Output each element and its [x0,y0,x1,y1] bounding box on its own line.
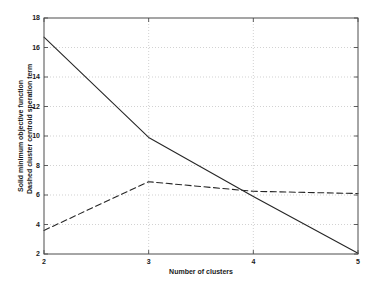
y-axis-label: Solid minimum objective function Dashed … [16,78,34,194]
y-axis-label-line-2: Dashed cluster centroid speration term [25,78,34,194]
y-tick-label: 2 [16,250,40,257]
x-axis-label: Number of clusters [141,268,261,275]
x-tick-label: 5 [348,258,368,265]
y-tick-label: 4 [16,221,40,228]
x-tick-label: 2 [34,258,54,265]
y-tick-label: 18 [16,14,40,21]
chart-plot [0,0,376,290]
figure-canvas: 24681012141618 2345 Number of clusters S… [0,0,376,290]
x-tick-label: 3 [139,258,159,265]
y-axis-label-line-1: Solid minimum objective function [16,78,25,194]
y-tick-label: 16 [16,44,40,51]
x-tick-label: 4 [243,258,263,265]
